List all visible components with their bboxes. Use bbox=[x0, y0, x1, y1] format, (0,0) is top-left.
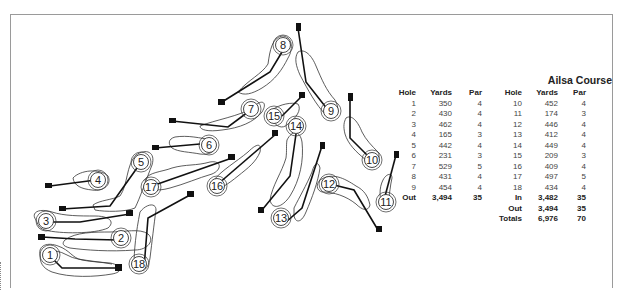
out-par-back: 35 bbox=[558, 204, 586, 215]
hole-yards: 452 bbox=[522, 99, 558, 110]
tee-16 bbox=[272, 130, 278, 136]
in-par: 35 bbox=[558, 193, 586, 204]
hole-2[interactable] bbox=[38, 231, 151, 251]
hole-label-16: 16 bbox=[207, 176, 227, 196]
hole-9[interactable] bbox=[296, 23, 338, 117]
hole-yards: 412 bbox=[522, 130, 558, 141]
hole-yards: 209 bbox=[522, 151, 558, 162]
tee-15 bbox=[299, 92, 305, 98]
header-yards-front: Yards bbox=[416, 88, 452, 99]
hole-number: 18 bbox=[482, 183, 522, 194]
table-row: 7 529 5 16 409 4 bbox=[382, 162, 586, 173]
tee-14 bbox=[258, 207, 264, 213]
hole-par: 4 bbox=[452, 109, 482, 120]
hole-par: 4 bbox=[558, 141, 586, 152]
tee-17 bbox=[228, 154, 235, 160]
hole-yards: 431 bbox=[416, 172, 452, 183]
hole-label-15: 15 bbox=[264, 106, 284, 126]
header-par-front: Par bbox=[452, 88, 482, 99]
tee-7 bbox=[169, 118, 176, 123]
svg-text:3: 3 bbox=[43, 215, 49, 227]
out-label-front: Out bbox=[382, 193, 416, 204]
hole-label-8: 8 bbox=[273, 35, 293, 55]
hole-number: 6 bbox=[382, 151, 416, 162]
hole-number: 2 bbox=[382, 109, 416, 120]
hole-number: 1 bbox=[382, 99, 416, 110]
tee-9 bbox=[296, 23, 301, 31]
hole-yards: 165 bbox=[416, 130, 452, 141]
hole-par: 4 bbox=[558, 99, 586, 110]
svg-text:14: 14 bbox=[290, 120, 302, 132]
svg-text:7: 7 bbox=[248, 103, 254, 115]
hole-label-17: 17 bbox=[141, 177, 161, 197]
hole-yards: 446 bbox=[522, 120, 558, 131]
svg-text:17: 17 bbox=[145, 181, 157, 193]
hole-par: 4 bbox=[558, 183, 586, 194]
hole-yards: 231 bbox=[416, 151, 452, 162]
hole-number: 17 bbox=[482, 172, 522, 183]
scorecard-table: Hole Yards Par Hole Yards Par 1 350 4 10… bbox=[382, 88, 586, 225]
table-row: 5 442 4 14 449 4 bbox=[382, 141, 586, 152]
tee-3 bbox=[126, 210, 133, 216]
hole-yards: 434 bbox=[522, 183, 558, 194]
hole-16[interactable] bbox=[214, 130, 278, 188]
hole-label-10: 10 bbox=[362, 150, 382, 170]
hole-label-7: 7 bbox=[241, 99, 261, 119]
hole-par: 4 bbox=[452, 141, 482, 152]
table-row: 6 231 3 15 209 3 bbox=[382, 151, 586, 162]
hole-number: 13 bbox=[482, 130, 522, 141]
hole-label-4: 4 bbox=[88, 170, 108, 190]
tee-4 bbox=[45, 183, 52, 188]
out-par-front: 35 bbox=[452, 193, 482, 204]
tee-18 bbox=[187, 191, 194, 197]
svg-text:15: 15 bbox=[268, 110, 280, 122]
hole-yards: 430 bbox=[416, 109, 452, 120]
svg-text:9: 9 bbox=[328, 105, 334, 117]
tee-13 bbox=[320, 142, 325, 149]
hole-par: 4 bbox=[558, 130, 586, 141]
header-row: Hole Yards Par Hole Yards Par bbox=[382, 88, 586, 99]
hole-number: 9 bbox=[382, 183, 416, 194]
hole-par: 3 bbox=[558, 109, 586, 120]
hole-number: 16 bbox=[482, 162, 522, 173]
hole-par: 5 bbox=[558, 172, 586, 183]
hole-par: 3 bbox=[452, 151, 482, 162]
header-par-back: Par bbox=[558, 88, 586, 99]
totals-yards: 6,976 bbox=[522, 214, 558, 225]
hole-label-5: 5 bbox=[131, 152, 151, 172]
hole-par: 4 bbox=[452, 99, 482, 110]
table-row: 8 431 4 17 497 5 bbox=[382, 172, 586, 183]
hole-label-2: 2 bbox=[111, 228, 131, 248]
out-yards-front: 3,494 bbox=[416, 193, 452, 204]
hole-label-13: 13 bbox=[271, 208, 291, 228]
hole-label-12: 12 bbox=[319, 174, 339, 194]
hole-number: 14 bbox=[482, 141, 522, 152]
hole-number: 8 bbox=[382, 172, 416, 183]
hole-yards: 449 bbox=[522, 141, 558, 152]
out-label-back: Out bbox=[482, 204, 522, 215]
svg-text:12: 12 bbox=[323, 178, 335, 190]
hole-par: 3 bbox=[452, 130, 482, 141]
hole-label-9: 9 bbox=[321, 101, 341, 121]
hole-number: 5 bbox=[382, 141, 416, 152]
course-title: Ailsa Course bbox=[548, 74, 612, 86]
hole-yards: 350 bbox=[416, 99, 452, 110]
hole-par: 4 bbox=[558, 120, 586, 131]
hole-par: 5 bbox=[452, 162, 482, 173]
svg-text:18: 18 bbox=[133, 258, 145, 270]
tee-6 bbox=[152, 145, 159, 150]
hole-number: 3 bbox=[382, 120, 416, 131]
hole-10[interactable] bbox=[344, 93, 379, 162]
table-row: 9 454 4 18 434 4 bbox=[382, 183, 586, 194]
header-hole-front: Hole bbox=[382, 88, 416, 99]
svg-text:8: 8 bbox=[280, 39, 286, 51]
hole-number: 11 bbox=[482, 109, 522, 120]
hole-par: 3 bbox=[558, 151, 586, 162]
subtotal-row: Out 3,494 35 bbox=[382, 204, 586, 215]
in-yards: 3,482 bbox=[522, 193, 558, 204]
hole-number: 4 bbox=[382, 130, 416, 141]
svg-text:13: 13 bbox=[275, 212, 287, 224]
hole-label-14: 14 bbox=[286, 116, 306, 136]
tee-12 bbox=[376, 226, 382, 232]
out-yards-back: 3,494 bbox=[522, 204, 558, 215]
